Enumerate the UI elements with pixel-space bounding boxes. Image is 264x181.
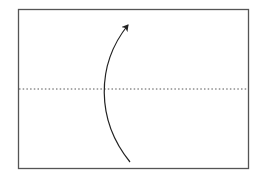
fold-diagram-canvas [0, 0, 264, 181]
fold-diagram [0, 0, 264, 181]
